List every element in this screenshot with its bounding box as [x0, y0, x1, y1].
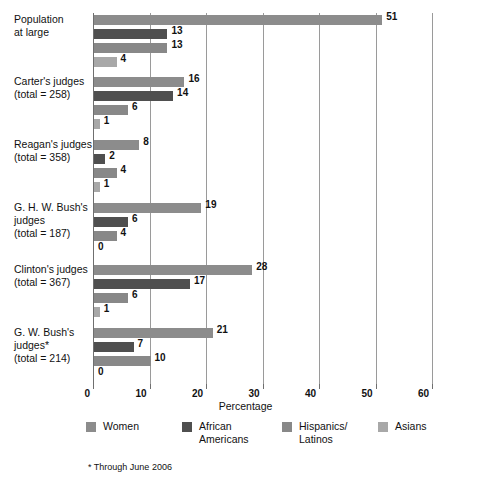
bar-women: [94, 77, 184, 87]
x-tick-label: 0: [84, 388, 93, 400]
bar-value-label: 1: [104, 304, 110, 314]
legend-label: African Americans: [199, 420, 249, 446]
bar-group: 217100: [93, 328, 432, 384]
bar-value-label: 13: [171, 40, 182, 50]
category-label-line: Carter's judges: [14, 75, 92, 88]
bar-women: [94, 328, 213, 338]
bar-row: 13: [93, 29, 432, 39]
bar-value-label: 14: [177, 88, 188, 98]
category-label: Populationat large: [14, 13, 92, 39]
bar-hispanics-latinos: [94, 168, 117, 178]
category-label-line: (total = 187): [14, 227, 92, 240]
bar-value-label: 6: [132, 290, 138, 300]
x-tick-mark: [432, 384, 433, 389]
bar-hispanics-latinos: [94, 356, 151, 366]
bar-value-label: 4: [121, 165, 127, 175]
gridline-60: [432, 13, 433, 384]
bar-value-label: 8: [143, 137, 149, 147]
bar-african-americans: [94, 342, 134, 352]
bar-hispanics-latinos: [94, 43, 167, 53]
bar-row: 7: [93, 342, 432, 352]
bar-row: 21: [93, 328, 432, 338]
x-tick-mark: [206, 384, 207, 389]
bar-group: 19640: [93, 203, 432, 259]
x-tick-mark: [263, 384, 264, 389]
bar-row: 13: [93, 43, 432, 53]
category-label: Carter's judges(total = 258): [14, 75, 92, 101]
bar-row: 2: [93, 154, 432, 164]
bar-value-label: 51: [386, 12, 397, 22]
category-label-line: at large: [14, 26, 92, 39]
bar-value-label: 7: [138, 339, 144, 349]
bar-value-label: 0: [98, 367, 104, 377]
x-tick-label: 30: [248, 388, 262, 400]
category-label: G. H. W. Bush'sjudges(total = 187): [14, 201, 92, 240]
x-tick-label: 10: [135, 388, 149, 400]
plot-area: 5113134161461824119640281761217100: [93, 13, 432, 384]
legend-swatch-icon: [86, 422, 96, 432]
bar-value-label: 1: [104, 116, 110, 126]
bar-women: [94, 15, 382, 25]
bar-african-americans: [94, 154, 105, 164]
bar-value-label: 6: [132, 102, 138, 112]
bar-asians: [94, 57, 117, 67]
bar-row: 16: [93, 77, 432, 87]
bar-value-label: 16: [188, 74, 199, 84]
legend-swatch-icon: [282, 422, 292, 432]
legend-item: Hispanics/ Latinos: [282, 420, 347, 446]
bar-row: 1: [93, 119, 432, 129]
bar-group: 8241: [93, 140, 432, 196]
category-label-line: (total = 367): [14, 276, 92, 289]
category-label-line: (total = 258): [14, 88, 92, 101]
bar-value-label: 13: [171, 26, 182, 36]
x-tick-mark: [376, 384, 377, 389]
bar-value-label: 2: [109, 151, 115, 161]
bar-women: [94, 265, 252, 275]
category-label-line: G. H. W. Bush's: [14, 201, 92, 214]
category-label-line: Reagan's judges: [14, 138, 92, 151]
bar-women: [94, 140, 139, 150]
legend-item: Women: [86, 420, 139, 433]
x-tick-mark: [150, 384, 151, 389]
bar-value-label: 17: [194, 276, 205, 286]
legend-item: Asians: [378, 420, 427, 433]
x-tick-label: 20: [192, 388, 206, 400]
x-axis-title: Percentage: [0, 400, 477, 412]
bar-row: 28: [93, 265, 432, 275]
bar-row: 10: [93, 356, 432, 366]
category-label-line: Population: [14, 13, 92, 26]
legend-label: Asians: [395, 420, 427, 433]
bar-row: 0: [93, 370, 432, 380]
bar-group: 5113134: [93, 15, 432, 71]
bar-row: 0: [93, 245, 432, 255]
bar-row: 8: [93, 140, 432, 150]
bar-asians: [94, 182, 100, 192]
bar-row: 6: [93, 217, 432, 227]
bar-value-label: 19: [205, 200, 216, 210]
x-axis-title-label: Percentage: [219, 400, 273, 412]
category-label-line: (total = 358): [14, 151, 92, 164]
x-tick-mark: [93, 384, 94, 389]
x-tick-label: 60: [418, 388, 432, 400]
bar-african-americans: [94, 279, 190, 289]
bar-value-label: 10: [155, 353, 166, 363]
category-label-line: judges: [14, 214, 92, 227]
category-label: Clinton's judges(total = 367): [14, 263, 92, 289]
legend-label: Hispanics/ Latinos: [299, 420, 347, 446]
bar-asians: [94, 307, 100, 317]
category-label: Reagan's judges(total = 358): [14, 138, 92, 164]
bar-value-label: 4: [121, 54, 127, 64]
bar-row: 6: [93, 293, 432, 303]
bar-african-americans: [94, 217, 128, 227]
footnote: * Through June 2006: [88, 462, 172, 473]
bar-hispanics-latinos: [94, 231, 117, 241]
category-label-line: judges*: [14, 339, 92, 352]
bar-value-label: 28: [256, 262, 267, 272]
bar-row: 4: [93, 57, 432, 67]
bar-value-label: 21: [217, 325, 228, 335]
bar-value-label: 0: [98, 242, 104, 252]
legend-label: Women: [103, 420, 139, 433]
bar-women: [94, 203, 201, 213]
legend-swatch-icon: [378, 422, 388, 432]
category-label: G. W. Bush'sjudges*(total = 214): [14, 326, 92, 365]
